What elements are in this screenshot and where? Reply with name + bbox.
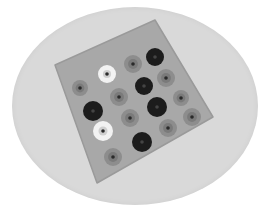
felt-circle-black xyxy=(146,48,164,66)
felt-circle-white xyxy=(93,121,113,141)
felt-circle-gray xyxy=(110,88,128,106)
felt-circle-gray xyxy=(173,90,189,106)
felt-circle-black xyxy=(83,101,103,121)
felt-circle-white xyxy=(98,65,116,83)
felt-circle-gray xyxy=(121,109,139,127)
felt-circle-gray xyxy=(104,148,122,166)
photo-scene: Grayscale photo of a square felt cushion… xyxy=(0,0,272,210)
felt-cushion xyxy=(55,20,213,183)
felt-circle-gray xyxy=(159,119,177,137)
felt-cushion-illustration xyxy=(0,0,272,210)
felt-circle-black xyxy=(147,97,167,117)
felt-circle-black xyxy=(132,132,152,152)
felt-circle-black xyxy=(135,77,153,95)
felt-circle-gray xyxy=(157,69,175,87)
felt-circle-gray xyxy=(183,108,201,126)
felt-circle-gray xyxy=(72,80,88,96)
felt-circle-gray xyxy=(124,55,142,73)
